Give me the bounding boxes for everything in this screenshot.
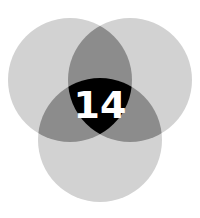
center-count-label: 14 — [74, 83, 127, 127]
venn-diagram: 14 — [0, 0, 200, 218]
